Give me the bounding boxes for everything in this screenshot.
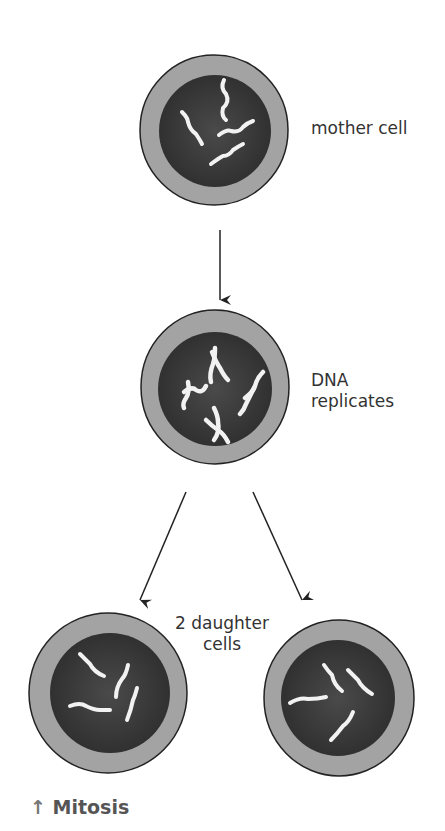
arrow-right <box>253 492 302 600</box>
daughter-cell-left <box>29 613 187 773</box>
arrow-left <box>140 492 186 600</box>
dna-label-line1: DNA <box>311 370 394 391</box>
caption-text: Mitosis <box>53 796 130 818</box>
daughter-label-line1: 2 daughter <box>172 613 272 634</box>
replicating-cell <box>141 310 289 464</box>
mother-cell <box>140 55 288 205</box>
dna-label-line2: replicates <box>311 391 394 412</box>
daughter-cell-right <box>264 620 414 776</box>
dna-replicates-label: DNA replicates <box>311 370 394 412</box>
up-arrow-icon: ↑ <box>30 796 46 818</box>
daughter-cells-label: 2 daughter cells <box>172 613 272 655</box>
mother-cell-label: mother cell <box>311 118 408 139</box>
figure-caption: ↑ Mitosis <box>30 796 129 818</box>
daughter-label-line2: cells <box>172 634 272 655</box>
